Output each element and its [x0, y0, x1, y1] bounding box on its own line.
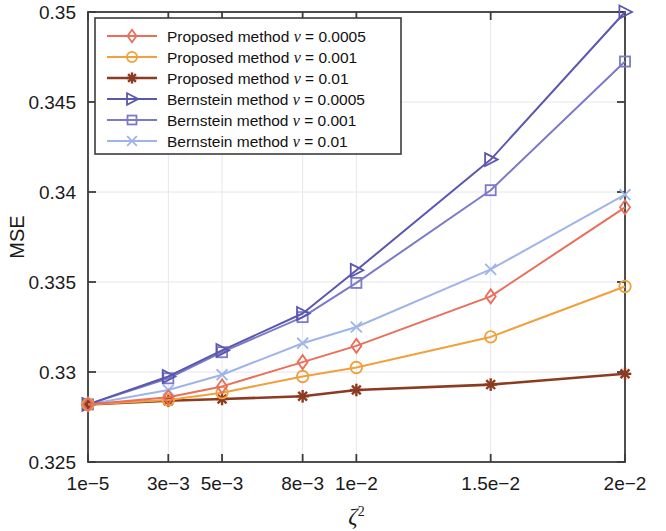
x-tick-label: 8e−3 [281, 473, 324, 494]
legend-label: Bernstein method ν = 0.0005 [167, 91, 365, 108]
legend-label: Proposed method ν = 0.001 [167, 49, 357, 66]
legend-label: Proposed method ν = 0.0005 [167, 28, 366, 45]
y-tick-label: 0.335 [28, 272, 76, 293]
y-tick-label: 0.35 [39, 2, 76, 23]
legend-label: Bernstein method ν = 0.001 [167, 112, 356, 129]
chart-figure: 0.3250.330.3350.340.3450.35 1e−53e−35e−3… [0, 0, 666, 531]
y-tick-label: 0.33 [39, 362, 76, 383]
x-tick-label: 1e−5 [67, 473, 110, 494]
legend-label: Proposed method ν = 0.01 [167, 70, 349, 87]
y-tick-label: 0.325 [28, 452, 76, 473]
chart-legend: Proposed method ν = 0.0005Proposed metho… [95, 18, 401, 154]
x-tick-label: 5e−3 [201, 473, 244, 494]
x-tick-label: 3e−3 [147, 473, 190, 494]
x-tick-label: 2e−2 [604, 473, 647, 494]
x-tick-label: 1.5e−2 [461, 473, 520, 494]
y-tick-label: 0.34 [39, 182, 76, 203]
legend-label: Bernstein method ν = 0.01 [167, 133, 348, 150]
y-tick-label: 0.345 [28, 92, 76, 113]
y-axis-title: MSE [6, 215, 28, 258]
x-tick-label: 1e−2 [335, 473, 378, 494]
chart-svg: 0.3250.330.3350.340.3450.35 1e−53e−35e−3… [0, 0, 666, 531]
